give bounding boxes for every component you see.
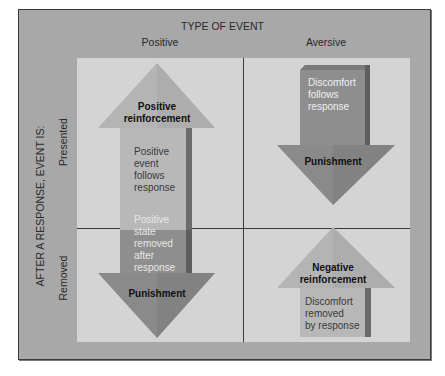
heading-negative-reinforcement: Negative reinforcement	[286, 262, 380, 286]
arrows-layer	[0, 0, 445, 376]
description-discomfort-removed: Discomfort removed by response	[305, 296, 359, 332]
heading-punishment-presented: Punishment	[286, 156, 380, 168]
description-discomfort-follows: Discomfort follows response	[308, 77, 356, 113]
heading-punishment-removed: Punishment	[110, 288, 204, 300]
description-positive-state-removed: Positive state removed after response	[134, 214, 175, 274]
description-positive-event-follows: Positive event follows response	[134, 146, 175, 194]
heading-positive-reinforcement: Positive reinforcement	[110, 101, 204, 125]
